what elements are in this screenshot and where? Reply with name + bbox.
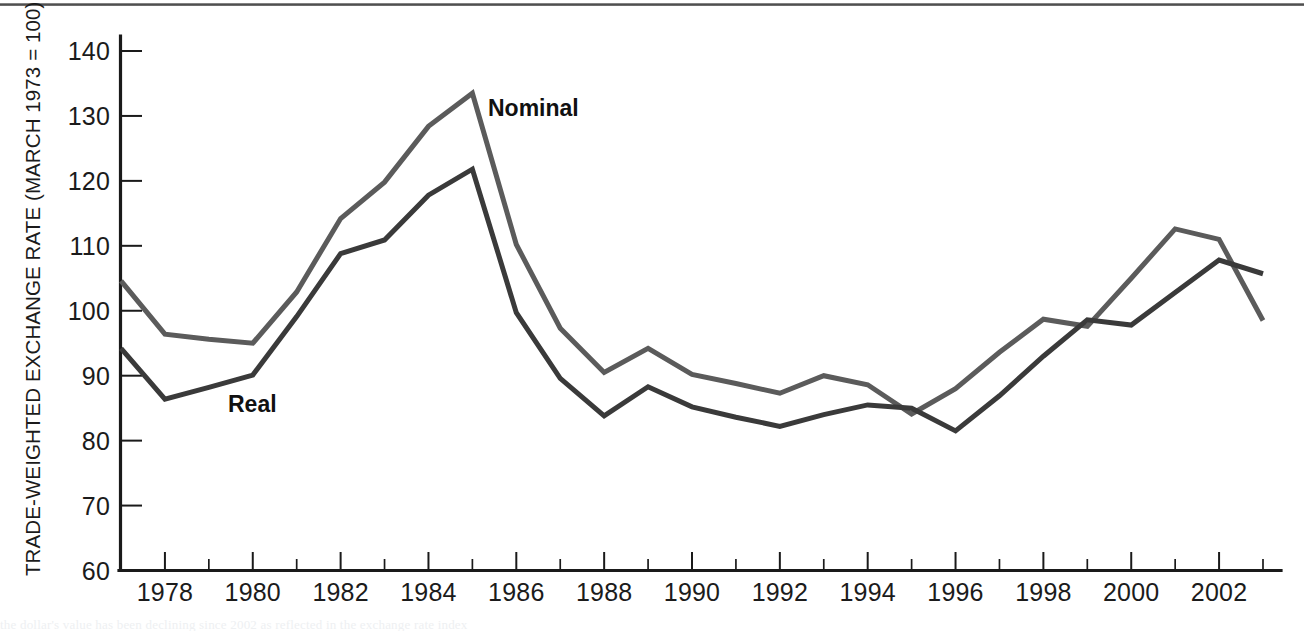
x-tick-label: 1986 <box>488 578 544 606</box>
y-axis-ticks <box>121 51 142 571</box>
line-chart: TRADE-WEIGHTED EXCHANGE RATE (MARCH 1973… <box>0 0 1304 631</box>
y-tick-label: 100 <box>68 297 110 325</box>
series-label-real: Real <box>228 391 277 417</box>
y-tick-label: 110 <box>70 232 110 260</box>
x-tick-label: 1978 <box>137 578 193 606</box>
series-line-nominal <box>121 93 1263 414</box>
y-axis-title: TRADE-WEIGHTED EXCHANGE RATE (MARCH 1973… <box>21 2 44 576</box>
x-tick-label: 1984 <box>400 578 456 606</box>
x-axis-tick-labels: 1978198019821984198619881990199219941996… <box>137 578 1248 606</box>
x-tick-label: 1998 <box>1015 578 1071 606</box>
y-tick-label: 80 <box>82 427 110 455</box>
x-tick-label: 1990 <box>664 578 720 606</box>
x-tick-label: 2002 <box>1191 578 1247 606</box>
page-footer-ghost-text: the dollar's value has been declining si… <box>0 617 1304 631</box>
y-tick-label: 90 <box>82 362 110 390</box>
y-tick-label: 120 <box>68 167 110 195</box>
x-tick-label: 1982 <box>312 578 368 606</box>
series-lines <box>121 93 1263 431</box>
x-tick-label: 1996 <box>927 578 983 606</box>
y-axis-tick-labels: 60708090100110120130140 <box>68 37 110 585</box>
x-tick-label: 2000 <box>1103 578 1159 606</box>
series-label-nominal: Nominal <box>488 95 579 121</box>
chart-figure: TRADE-WEIGHTED EXCHANGE RATE (MARCH 1973… <box>0 0 1304 631</box>
y-tick-label: 70 <box>82 492 110 520</box>
x-tick-label: 1992 <box>752 578 808 606</box>
x-axis-ticks <box>165 552 1263 570</box>
x-tick-label: 1980 <box>225 578 281 606</box>
x-tick-label: 1994 <box>839 578 895 606</box>
x-tick-label: 1988 <box>576 578 632 606</box>
y-tick-label: 130 <box>68 102 110 130</box>
y-tick-label: 60 <box>82 557 110 585</box>
y-tick-label: 140 <box>68 37 110 65</box>
